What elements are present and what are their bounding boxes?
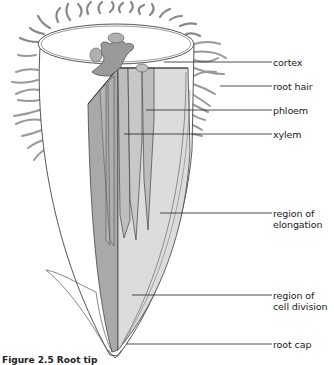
label-root-cap: root cap [273, 339, 311, 350]
figure-caption: Figure 2.5 Root tip [2, 355, 97, 365]
label-root-hair: root hair [273, 81, 313, 92]
label-phloem: phloem [273, 105, 308, 116]
label-region-of-elongation: region of elongation [273, 208, 322, 230]
label-cortex: cortex [273, 57, 302, 68]
label-xylem: xylem [273, 129, 301, 140]
label-region-of-cell-division: region of cell division [273, 290, 327, 312]
